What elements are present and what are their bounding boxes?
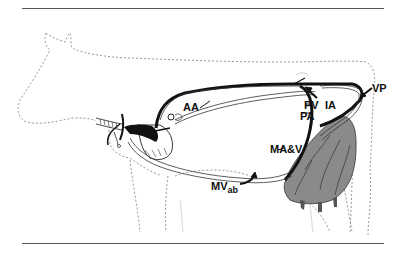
label-vp: VP bbox=[372, 83, 387, 94]
label-mv-main: MV bbox=[211, 180, 228, 192]
label-mv-ab: MVab bbox=[211, 181, 238, 195]
label-mav: MA&V bbox=[270, 144, 302, 155]
label-aa: AA bbox=[183, 102, 199, 113]
heart bbox=[124, 114, 182, 160]
label-mv-sub: ab bbox=[228, 185, 239, 195]
label-pa: PA bbox=[300, 111, 314, 122]
cow-circulation-diagram bbox=[0, 0, 406, 254]
label-ia: IA bbox=[325, 100, 336, 111]
legs-faint bbox=[180, 200, 313, 232]
